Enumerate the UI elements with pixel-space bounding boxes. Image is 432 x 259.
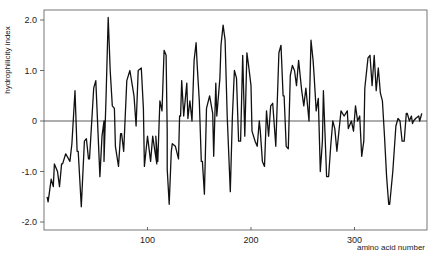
y-tick-label: 2.0 <box>24 15 37 25</box>
plot-frame <box>44 10 427 230</box>
y-tick-label: -2.0 <box>21 217 37 227</box>
hydrophilicity-plot: 2.01.00-1.0-2.0 100200300 hydrophilicity… <box>0 0 432 259</box>
x-tick-label: 100 <box>140 235 155 245</box>
hydrophilicity-trace <box>47 18 422 207</box>
y-tick-label: 1.0 <box>24 66 37 76</box>
y-tick-label: 0 <box>32 116 37 126</box>
y-axis-title: hydrophilicity index <box>3 26 12 94</box>
x-tick-label: 200 <box>243 235 258 245</box>
y-tick-label: -1.0 <box>21 167 37 177</box>
x-axis-title: amino acid number <box>357 243 425 252</box>
y-axis-ticks: 2.01.00-1.0-2.0 <box>21 15 44 227</box>
